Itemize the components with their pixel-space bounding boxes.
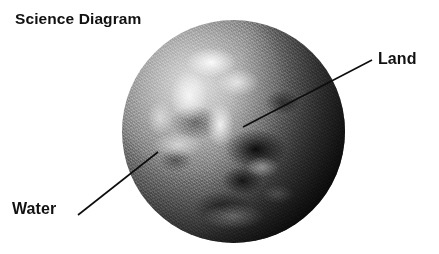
callout-label-land: Land <box>378 50 417 68</box>
earth-globe-image <box>122 20 345 243</box>
callout-label-water: Water <box>12 200 56 218</box>
science-diagram: Science Diagram Land Water <box>0 0 439 254</box>
globe-highlight-layer <box>122 20 345 243</box>
